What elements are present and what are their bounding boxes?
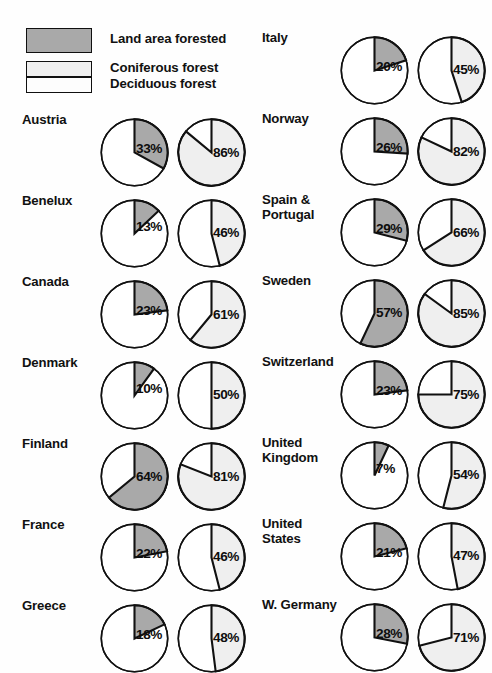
wedge-coniferous-forest — [212, 200, 245, 265]
legend-swatch-coniferous-half — [27, 62, 91, 77]
pie-land-area-forested: 33% — [100, 118, 169, 187]
pie-forest-composition: 85% — [417, 279, 486, 348]
pie-forest-composition: 47% — [417, 522, 486, 591]
legend-label-coniferous-forest: Coniferous forest — [110, 60, 218, 75]
pie-land-area-forested: 57% — [340, 279, 409, 348]
wedge-coniferous-forest — [212, 524, 245, 589]
wedge-land-area-forested — [375, 604, 408, 643]
pie-land-area-forested: 10% — [100, 361, 169, 430]
wedge-land-area-forested — [375, 199, 408, 240]
pie-forest-composition: 54% — [417, 441, 486, 510]
pie-land-area-forested: 28% — [340, 603, 409, 672]
pie-land-area-forested: 23% — [100, 280, 169, 349]
pie-land-area-forested: 18% — [100, 604, 169, 673]
pie-forest-composition: 46% — [177, 523, 246, 592]
legend-swatch-land-area-forested — [26, 28, 92, 53]
pie-forest-composition: 48% — [177, 604, 246, 673]
pie-forest-composition: 75% — [417, 360, 486, 429]
legend-label-deciduous-forest: Deciduous forest — [110, 76, 216, 91]
pie-forest-composition: 82% — [417, 117, 486, 186]
pie-land-area-forested: 26% — [340, 117, 409, 186]
forest-pie-chart-figure: Land area forested Coniferous forest Dec… — [0, 0, 492, 673]
pie-land-area-forested: 64% — [100, 442, 169, 511]
wedge-coniferous-forest — [212, 605, 245, 671]
pie-forest-composition: 61% — [177, 280, 246, 349]
pie-land-area-forested: 13% — [100, 199, 169, 268]
legend-swatch-forest-types — [26, 61, 92, 93]
legend-swatch-divider — [27, 76, 91, 78]
legend: Land area forested Coniferous forest Dec… — [22, 24, 252, 102]
pie-land-area-forested: 20% — [340, 36, 409, 105]
pie-forest-composition: 81% — [177, 442, 246, 511]
pie-land-area-forested: 23% — [340, 360, 409, 429]
pie-forest-composition: 66% — [417, 198, 486, 267]
wedge-coniferous-forest — [212, 362, 245, 428]
pie-forest-composition: 45% — [417, 36, 486, 105]
pie-forest-composition: 86% — [177, 118, 246, 187]
pie-land-area-forested: 29% — [340, 198, 409, 267]
pie-forest-composition: 71% — [417, 603, 486, 672]
legend-label-land-area-forested: Land area forested — [110, 31, 226, 46]
wedge-coniferous-forest — [452, 523, 485, 589]
pie-forest-composition: 50% — [177, 361, 246, 430]
pie-land-area-forested: 7% — [340, 441, 409, 510]
pie-forest-composition: 46% — [177, 199, 246, 268]
pie-land-area-forested: 21% — [340, 522, 409, 591]
pie-land-area-forested: 22% — [100, 523, 169, 592]
